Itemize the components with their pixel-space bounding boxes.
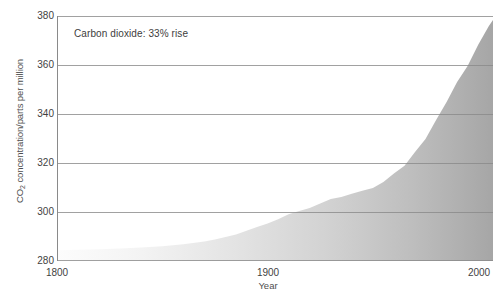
- x-tick-label: 2000: [449, 267, 501, 278]
- y-tick-label: 280: [28, 256, 54, 266]
- y-tick-label: 340: [28, 109, 54, 119]
- y-tick-label: 360: [28, 60, 54, 70]
- y-axis-tick-labels: 380 360 340 320 300 280: [26, 0, 54, 299]
- x-axis-title: Year: [238, 280, 298, 291]
- area-series-co2: [57, 20, 493, 261]
- y-tick-label: 380: [28, 11, 54, 21]
- x-tick-label: 1900: [238, 267, 298, 278]
- y-tick-label: 300: [28, 207, 54, 217]
- y-tick-label: 320: [28, 158, 54, 168]
- y-axis-title-prefix: CO: [14, 189, 25, 203]
- y-axis-title-subscript: 2: [19, 185, 26, 189]
- chart-svg: [57, 16, 493, 261]
- y-axis-title-suffix: concentration/parts per million: [14, 59, 25, 185]
- co2-concentration-chart: CO2 concentration/parts per million 380 …: [0, 0, 501, 299]
- plot-area: [57, 16, 493, 261]
- chart-annotation: Carbon dioxide: 33% rise: [74, 28, 188, 39]
- x-tick-label: 1800: [27, 267, 87, 278]
